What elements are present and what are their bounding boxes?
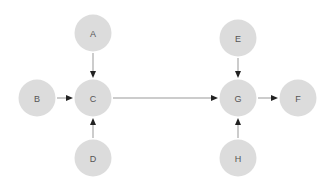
node-label: A <box>90 29 96 39</box>
graph-node-h[interactable]: H <box>220 140 257 177</box>
arrowhead-icon <box>235 71 241 78</box>
graph-node-g[interactable]: G <box>220 80 257 117</box>
graph-edge-e-to-g <box>235 58 241 78</box>
arrowhead-icon <box>211 95 218 101</box>
node-label: H <box>235 154 242 164</box>
graph-node-b[interactable]: B <box>19 80 56 117</box>
arrowhead-icon <box>271 95 278 101</box>
graph-node-e[interactable]: E <box>220 20 257 57</box>
graph-svg: ABCDEFGH <box>0 0 334 188</box>
arrowhead-icon <box>90 118 96 125</box>
graph-edge-h-to-g <box>235 118 241 138</box>
graph-edge-b-to-c <box>57 95 73 101</box>
graph-node-c[interactable]: C <box>75 80 112 117</box>
arrowhead-icon <box>90 71 96 78</box>
node-label: C <box>90 94 97 104</box>
graph-node-d[interactable]: D <box>75 140 112 177</box>
node-label: B <box>34 94 40 104</box>
arrowhead-icon <box>235 118 241 125</box>
graph-node-a[interactable]: A <box>75 15 112 52</box>
graph-edge-g-to-f <box>258 95 278 101</box>
node-label: G <box>234 94 241 104</box>
graph-node-f[interactable]: F <box>280 80 317 117</box>
node-label: E <box>235 34 241 44</box>
node-label: F <box>295 94 301 104</box>
graph-edge-a-to-c <box>90 53 96 78</box>
graph-edge-c-to-g <box>113 95 218 101</box>
diagram-canvas: ABCDEFGH <box>0 0 334 188</box>
node-label: D <box>90 154 97 164</box>
arrowhead-icon <box>66 95 73 101</box>
graph-edge-d-to-c <box>90 118 96 138</box>
